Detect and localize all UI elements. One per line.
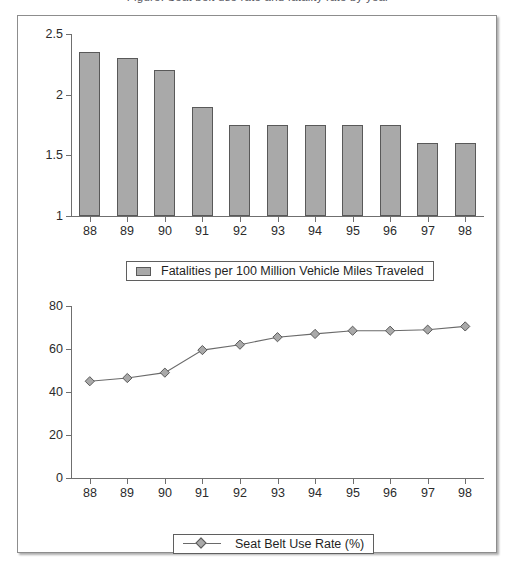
data-point-96 xyxy=(386,326,395,335)
legend-swatch-icon xyxy=(136,267,151,276)
bar-94 xyxy=(305,125,326,216)
data-point-98 xyxy=(461,322,470,331)
bar-x-tick xyxy=(465,217,466,222)
bar-legend-label: Fatalities per 100 Million Vehicle Miles… xyxy=(161,265,424,278)
figure-caption-sliver: Figure. Seat belt use rate and fatality … xyxy=(0,0,516,5)
bar-88 xyxy=(79,52,100,216)
bar-91 xyxy=(192,107,213,216)
line-plot-area: 0204060808889909192939495969798 xyxy=(18,288,498,518)
data-point-97 xyxy=(423,325,432,334)
line-legend-label: Seat Belt Use Rate (%) xyxy=(235,538,364,551)
bar-x-tick-label: 96 xyxy=(370,225,410,238)
bar-y-tick xyxy=(66,216,71,217)
bar-x-tick-label: 90 xyxy=(145,225,185,238)
bar-92 xyxy=(229,125,250,216)
fatalities-bar-chart: 11.522.58889909192939495969798 Fatalitie… xyxy=(18,16,498,281)
bar-y-tick xyxy=(66,95,71,96)
bar-89 xyxy=(117,58,138,216)
data-point-94 xyxy=(310,329,319,338)
bar-x-tick-label: 92 xyxy=(220,225,260,238)
bar-x-tick-label: 89 xyxy=(107,225,147,238)
bar-90 xyxy=(154,70,175,216)
bar-x-tick-label: 98 xyxy=(445,225,485,238)
bar-y-tick xyxy=(66,155,71,156)
legend-diamond-marker-icon xyxy=(183,538,221,550)
seatbelt-series-path xyxy=(18,288,498,518)
bar-x-tick xyxy=(90,217,91,222)
bar-97 xyxy=(417,143,438,216)
data-point-88 xyxy=(85,377,94,386)
bar-95 xyxy=(342,125,363,216)
bar-x-tick xyxy=(428,217,429,222)
data-point-89 xyxy=(123,373,132,382)
bar-96 xyxy=(380,125,401,216)
figure-frame: 11.522.58889909192939495969798 Fatalitie… xyxy=(17,15,497,553)
data-point-90 xyxy=(160,368,169,377)
bar-y-tick-label: 2 xyxy=(27,89,63,102)
bar-x-tick xyxy=(353,217,354,222)
bar-x-tick-label: 93 xyxy=(258,225,298,238)
bar-x-tick-label: 95 xyxy=(333,225,373,238)
bar-x-tick xyxy=(165,217,166,222)
bar-y-tick-label: 1.5 xyxy=(27,149,63,162)
data-point-95 xyxy=(348,326,357,335)
bar-x-tick xyxy=(278,217,279,222)
bar-x-tick xyxy=(240,217,241,222)
bar-y-axis xyxy=(71,34,72,217)
data-point-92 xyxy=(235,340,244,349)
bar-y-tick-label: 1 xyxy=(27,210,63,223)
bar-y-tick xyxy=(66,34,71,35)
bar-x-tick xyxy=(127,217,128,222)
bar-chart-legend: Fatalities per 100 Million Vehicle Miles… xyxy=(126,261,434,281)
bar-x-tick xyxy=(202,217,203,222)
bar-x-tick-label: 97 xyxy=(408,225,448,238)
data-point-91 xyxy=(198,345,207,354)
data-point-93 xyxy=(273,333,282,342)
seatbelt-line-chart: 0204060808889909192939495969798 Seat Bel… xyxy=(18,288,498,554)
bar-x-tick-label: 94 xyxy=(295,225,335,238)
bar-93 xyxy=(267,125,288,216)
bar-x-tick-label: 88 xyxy=(70,225,110,238)
bar-y-tick-label: 2.5 xyxy=(27,28,63,41)
bar-x-tick-label: 91 xyxy=(182,225,222,238)
bar-x-tick xyxy=(315,217,316,222)
line-chart-legend: Seat Belt Use Rate (%) xyxy=(173,534,374,554)
bar-x-tick xyxy=(390,217,391,222)
bar-98 xyxy=(455,143,476,216)
bar-plot-area: 11.522.58889909192939495969798 xyxy=(18,16,498,246)
